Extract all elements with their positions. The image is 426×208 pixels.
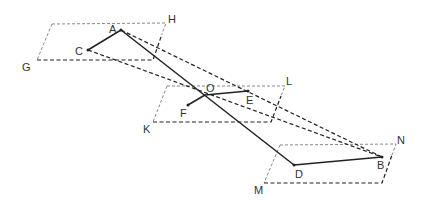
parallel-planes-figure: A C H G O E F L K D B N M (0, 0, 426, 208)
label-C: C (75, 45, 83, 57)
segment-OF (188, 95, 205, 105)
segment-AD (121, 30, 294, 165)
label-M: M (254, 184, 263, 196)
segment-CB (88, 50, 382, 157)
point-F (187, 104, 190, 107)
label-B: B (377, 159, 384, 171)
label-H: H (168, 13, 176, 25)
point-E (247, 90, 250, 93)
point-A (120, 29, 123, 32)
diagram-canvas: A C H G O E F L K D B N M (0, 0, 426, 208)
label-K: K (143, 123, 151, 135)
label-G: G (22, 61, 31, 73)
point-C (87, 49, 90, 52)
label-E: E (246, 94, 253, 106)
label-O: O (206, 82, 215, 94)
label-F: F (180, 107, 187, 119)
plane-middle (153, 86, 285, 122)
point-D (293, 164, 296, 167)
segment-DB (294, 157, 382, 165)
label-L: L (286, 75, 292, 87)
label-A: A (109, 23, 117, 35)
label-D: D (295, 168, 303, 180)
label-N: N (397, 134, 405, 146)
